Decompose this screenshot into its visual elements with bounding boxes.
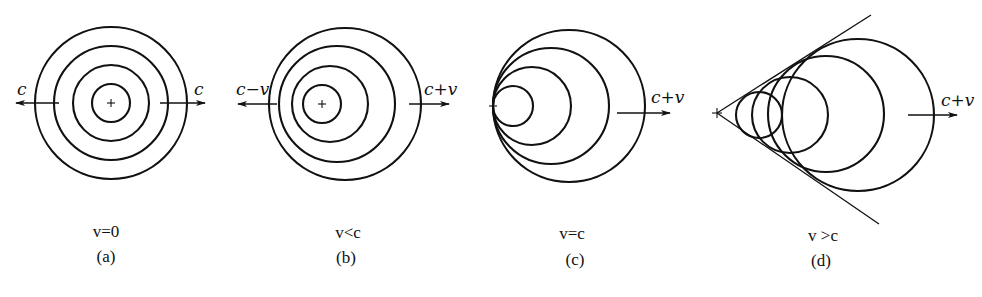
panel-caption: (a) [97, 247, 116, 266]
wavefront-circle-3 [493, 48, 609, 164]
panel-a: c c v=0 (a) [16, 27, 205, 266]
right-speed-label: c+v [651, 87, 685, 107]
condition-label: v<c [335, 223, 361, 242]
left-speed-label: c [17, 79, 27, 99]
wavefront-circle-2 [752, 77, 828, 153]
wavefront-circle-4 [493, 30, 645, 182]
panel-caption: (d) [811, 251, 831, 270]
wavefront-circles [269, 28, 421, 180]
left-speed-label: c−v [236, 79, 270, 99]
wavefront-circle-3 [768, 56, 884, 172]
source-plus-icon [318, 100, 326, 108]
panel-b: c−v c+v v<c (b) [236, 28, 458, 267]
mach-cone-upper-line [717, 15, 871, 113]
source-plus-icon [712, 108, 722, 118]
wavefront-circle-1 [493, 86, 533, 126]
wavefront-circles [736, 39, 934, 191]
condition-label: v=0 [93, 222, 120, 241]
wavefront-circle-1 [736, 92, 782, 138]
panel-c: c+v v=c (c) [489, 30, 685, 269]
condition-label: v >c [808, 226, 838, 245]
wavefront-circle-3 [279, 46, 395, 162]
panel-caption: (c) [566, 250, 585, 269]
condition-label: v=c [559, 224, 585, 243]
doppler-wavefront-figure: c c v=0 (a) c−v c+v v<c (b) c+ [0, 0, 982, 297]
source-plus-icon [107, 99, 115, 107]
right-speed-label: c [194, 79, 204, 99]
panel-d: c+v v >c (d) [712, 15, 975, 270]
wavefront-circles [493, 30, 645, 182]
right-speed-label: c+v [941, 90, 975, 110]
right-speed-label: c+v [424, 79, 458, 99]
panel-caption: (b) [336, 248, 356, 267]
